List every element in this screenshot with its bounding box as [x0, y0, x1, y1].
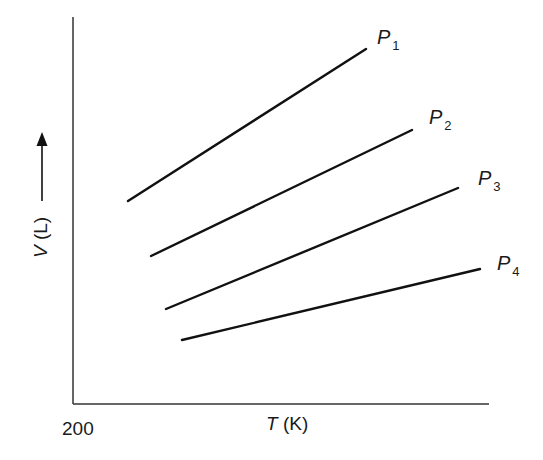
- x-tick-label: 200: [62, 418, 94, 440]
- y-axis-title: V (L): [30, 217, 52, 258]
- up-arrow-icon: [37, 132, 48, 201]
- x-axis-unit: (K): [283, 413, 308, 434]
- label-subscript: 4: [512, 264, 519, 279]
- series-line-p2: [151, 130, 412, 256]
- x-axis-var: T: [266, 413, 278, 434]
- series-label-p2: P2: [429, 106, 452, 133]
- x-axis-title: T (K): [266, 413, 308, 435]
- label-var: P: [478, 167, 491, 189]
- chart-canvas: [0, 0, 543, 460]
- y-axis-unit: (L): [30, 217, 51, 240]
- label-var: P: [429, 106, 442, 128]
- series-line-p4: [182, 269, 480, 340]
- label-subscript: 3: [493, 179, 500, 194]
- series-line-p3: [166, 188, 458, 309]
- label-subscript: 2: [444, 118, 451, 133]
- series-label-p3: P3: [478, 167, 501, 194]
- label-var: P: [497, 252, 510, 274]
- y-axis-var: V: [30, 245, 51, 258]
- label-var: P: [377, 26, 390, 48]
- series-line-p1: [128, 49, 366, 201]
- label-subscript: 1: [392, 38, 399, 53]
- series-label-p4: P4: [497, 252, 520, 279]
- series-label-p1: P1: [377, 26, 400, 53]
